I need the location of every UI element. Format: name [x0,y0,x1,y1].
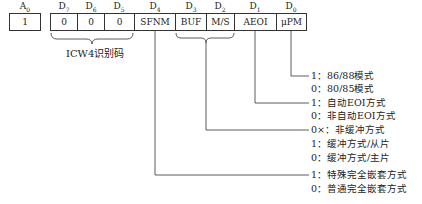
bit-label-d2: D2 [205,1,235,13]
cell-sfnm: SFNM [134,13,176,31]
cell-ms: M/S [206,13,235,31]
buf-desc-0x: 0×：非缓冲方式 [311,124,385,136]
aeoi-desc-0: 0：非自动EOI方式 [311,110,396,122]
bit-label-a0: A0 [10,1,40,13]
bit-label-d5: D5 [104,1,134,13]
sfnm-desc-0: 0：普通完全嵌套方式 [311,183,407,195]
bit-label-d4: D4 [140,1,170,13]
sfnm-desc-1: 1：特殊完全嵌套方式 [311,169,407,181]
cell-d5: 0 [104,13,135,31]
buf-desc-master: 0：缓冲方式/主片 [311,152,390,164]
icw4-id-label: ICW4识别码 [66,45,124,60]
cell-d6: 0 [77,13,105,31]
bit-label-d0: D0 [276,1,306,13]
bit-label-d7: D7 [49,1,79,13]
cell-d7: 0 [50,13,78,31]
bit-label-d3: D3 [176,1,206,13]
cell-aeoi: AEOI [234,13,277,31]
upm-desc-0: 0：80/85模式 [311,83,374,95]
cell-upm: μPM [276,13,307,31]
bit-label-d6: D6 [76,1,106,13]
aeoi-desc-1: 1：自动EOI方式 [311,97,386,109]
upm-desc-1: 1：86/88模式 [311,70,374,82]
cell-buf: BUF [175,13,207,31]
cell-a0: 1 [9,13,41,31]
bit-label-d1: D1 [240,1,270,13]
buf-desc-slave: 1：缓冲方式/从片 [311,138,390,150]
